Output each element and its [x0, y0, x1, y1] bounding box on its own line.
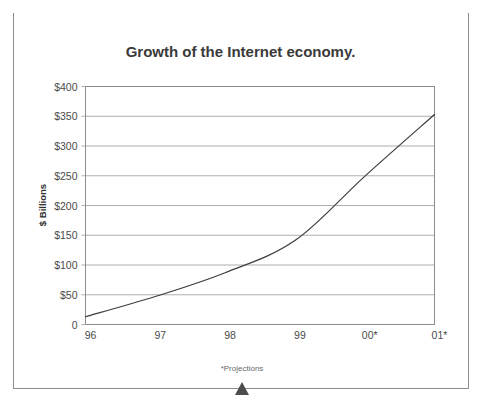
figure-title: Growth of the Internet economy. — [0, 43, 481, 60]
figure-card — [13, 13, 469, 389]
